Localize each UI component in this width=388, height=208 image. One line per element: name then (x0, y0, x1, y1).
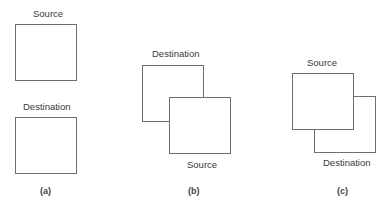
source-box-b (169, 97, 231, 154)
source-box-a (15, 24, 77, 81)
destination-label-b: Destination (152, 49, 200, 59)
source-label-c: Source (307, 58, 337, 68)
destination-label-a: Destination (23, 102, 71, 112)
source-box-c (292, 73, 354, 130)
destination-box-a (15, 117, 77, 174)
source-label-b: Source (187, 160, 217, 170)
caption-a: (a) (40, 187, 51, 196)
caption-b: (b) (188, 187, 200, 196)
caption-c: (c) (337, 187, 348, 196)
source-label-a: Source (33, 9, 63, 19)
destination-label-c: Destination (323, 158, 371, 168)
